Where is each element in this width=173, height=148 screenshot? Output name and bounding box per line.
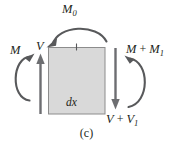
applied-moment-label-base: M bbox=[62, 2, 72, 16]
right-moment-label-base: M bbox=[126, 42, 136, 56]
applied-moment-label-sub: 0 bbox=[72, 8, 76, 18]
left-shear-label-base: V bbox=[36, 39, 44, 53]
right-moment-label-term2: M bbox=[149, 42, 159, 56]
element-length-label: dx bbox=[66, 97, 77, 109]
left-moment-arc-icon bbox=[16, 54, 35, 101]
right-shear-label-operator: + bbox=[114, 112, 127, 126]
applied-moment-label: M0 bbox=[62, 3, 77, 16]
left-shear-arrow-icon bbox=[36, 54, 44, 115]
right-moment-label: M + M1 bbox=[126, 43, 164, 56]
left-shear-label: V bbox=[36, 40, 44, 53]
right-shear-arrow-icon bbox=[111, 48, 119, 110]
right-moment-label-sub: 1 bbox=[160, 48, 164, 58]
right-moment-arc-icon bbox=[125, 56, 145, 108]
figure-caption: (c) bbox=[0, 126, 173, 141]
left-moment-label: M bbox=[10, 44, 20, 57]
right-moment-label-operator: + bbox=[136, 42, 149, 56]
right-shear-label-base: V bbox=[106, 112, 114, 126]
right-shear-label-term2: V bbox=[126, 112, 134, 126]
beam-element-free-body-diagram: M0 M V M + M1 V + V1 dx (c) bbox=[0, 0, 173, 148]
right-shear-label: V + V1 bbox=[106, 113, 138, 126]
left-moment-label-base: M bbox=[10, 43, 20, 57]
